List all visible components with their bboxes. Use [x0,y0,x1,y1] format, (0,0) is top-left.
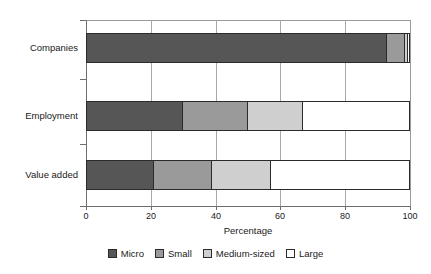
x-tick-100 [410,206,411,210]
legend-swatch-icon [108,249,117,258]
bar-segment-medium-sized [248,101,303,131]
legend-item-large[interactable]: Large [286,248,323,259]
legend-item-medium-sized[interactable]: Medium-sized [203,248,275,259]
bar-value-added [86,160,410,190]
bar-segment-small [154,160,212,190]
y-tick-label-1: Employment [25,110,78,122]
legend-item-small[interactable]: Small [155,248,192,259]
bar-segment-large [303,101,410,131]
legend-label: Medium-sized [216,248,275,259]
x-tick-label-0: 0 [66,211,106,222]
x-tick-40 [216,206,217,210]
y-tick-1 [80,79,86,80]
y-tick-3 [80,206,86,207]
legend-item-micro[interactable]: Micro [108,248,144,259]
bar-companies [86,33,410,63]
bar-segment-small [183,101,248,131]
bar-employment [86,101,410,131]
legend-label: Micro [121,248,144,259]
x-tick-0 [86,206,87,210]
x-tick-60 [280,206,281,210]
x-tick-20 [151,206,152,210]
y-tick-label-2: Value added [25,169,78,181]
x-axis-title: Percentage [86,225,410,236]
y-tick-2 [80,144,86,145]
y-tick-label-0: Companies [30,42,78,54]
x-tick-label-20: 20 [131,211,171,222]
legend-swatch-icon [203,249,212,258]
bar-segment-micro [86,160,154,190]
legend-label: Small [168,248,192,259]
legend-swatch-icon [155,249,164,258]
legend-label: Large [299,248,323,259]
x-tick-label-100: 100 [390,211,430,222]
bar-segment-micro [86,33,387,63]
x-tick-label-40: 40 [196,211,236,222]
bar-segment-small [387,33,405,63]
stacked-bar-chart: 020406080100 Percentage CompaniesEmploym… [0,0,431,274]
y-tick-0 [80,20,86,21]
bar-segment-large [408,33,410,63]
gridline-100 [410,20,411,206]
x-tick-label-60: 60 [260,211,300,222]
legend-swatch-icon [286,249,295,258]
x-tick-80 [345,206,346,210]
bar-segment-large [271,160,410,190]
x-tick-label-80: 80 [325,211,365,222]
x-axis-line [86,206,411,207]
bar-segment-medium-sized [212,160,270,190]
bar-segment-micro [86,101,183,131]
chart-legend: MicroSmallMedium-sizedLarge [0,248,431,259]
